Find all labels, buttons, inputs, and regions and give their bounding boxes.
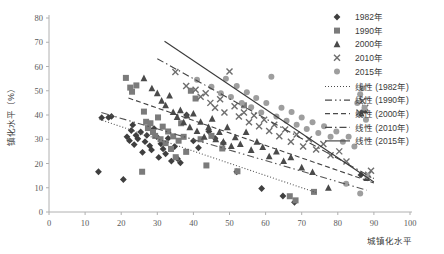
legend-label-2010年[interactable]: 2010年 — [355, 53, 383, 63]
data-point-2000年 — [243, 128, 250, 135]
data-point-2000年 — [154, 90, 161, 97]
x-tick-label: 100 — [404, 218, 417, 228]
x-tick-label: 40 — [189, 218, 198, 228]
data-point-2010年 — [172, 69, 178, 75]
y-tick-label: 80 — [35, 13, 44, 23]
data-point-1990年 — [147, 120, 153, 126]
data-point-2000年 — [259, 143, 266, 150]
data-point-1990年 — [139, 169, 145, 175]
x-axis-title: 城镇化水平 — [367, 236, 412, 246]
data-point-2000年 — [209, 115, 216, 122]
data-point-1990年 — [129, 89, 135, 95]
data-point-2000年 — [237, 141, 244, 148]
x-tick-label: 20 — [117, 218, 126, 228]
data-point-2015年 — [304, 126, 310, 132]
legend-marker-2015年 — [334, 68, 340, 74]
data-point-1982年 — [142, 138, 149, 145]
data-point-2015年 — [289, 109, 295, 115]
data-point-2015年 — [315, 130, 321, 136]
data-point-2010年 — [217, 96, 223, 102]
data-point-2000年 — [224, 124, 231, 131]
data-point-2015年 — [294, 122, 300, 128]
data-point-2010年 — [256, 123, 262, 129]
data-point-1982年 — [131, 141, 138, 148]
x-tick-label: 50 — [225, 218, 234, 228]
y-tick-label: 50 — [35, 86, 44, 96]
data-point-1982年 — [98, 114, 105, 121]
data-point-1982年 — [143, 132, 150, 139]
y-tick-label: 40 — [35, 110, 44, 120]
data-point-2010年 — [313, 146, 319, 152]
y-tick-label: 10 — [35, 183, 44, 193]
data-point-2010年 — [276, 133, 282, 139]
x-tick-label: 70 — [297, 218, 306, 228]
data-point-2015年 — [268, 74, 274, 80]
data-point-2015年 — [357, 191, 363, 197]
data-point-1982年 — [120, 176, 127, 183]
data-point-2010年 — [266, 128, 272, 134]
data-point-2000年 — [220, 138, 227, 145]
data-point-2015年 — [244, 89, 250, 95]
data-point-2000年 — [186, 124, 193, 131]
legend-label-2000年[interactable]: 2000年 — [355, 39, 383, 49]
data-point-1990年 — [133, 82, 139, 88]
y-tick-label: 60 — [35, 62, 44, 72]
legend-label-2015年[interactable]: 2015年 — [355, 67, 383, 77]
data-point-1982年 — [95, 168, 102, 175]
data-point-2010年 — [288, 139, 294, 145]
data-point-2010年 — [232, 103, 238, 109]
legend-label-线性 (2000年)[interactable]: 线性 (2000年) — [355, 109, 409, 119]
data-point-2000年 — [166, 92, 173, 99]
legend-label-1982年[interactable]: 1982年 — [355, 12, 383, 22]
data-point-2000年 — [197, 118, 204, 125]
data-point-1990年 — [173, 154, 179, 160]
data-point-1990年 — [123, 75, 129, 81]
y-tick-label: 0 — [39, 207, 43, 217]
data-point-2015年 — [340, 139, 346, 145]
data-point-2000年 — [280, 157, 287, 164]
legend-label-线性 (1990年)[interactable]: 线性 (1990年) — [355, 95, 409, 105]
data-point-2000年 — [325, 184, 332, 191]
chart-canvas: 010203040506070800102030405060708090100城… — [0, 0, 444, 254]
y-tick-label: 30 — [35, 134, 44, 144]
data-point-2015年 — [310, 119, 316, 125]
scatter-chart: 010203040506070800102030405060708090100城… — [0, 0, 444, 254]
data-point-2000年 — [248, 146, 255, 153]
data-point-1990年 — [168, 146, 174, 152]
data-point-2010年 — [212, 105, 218, 111]
data-point-1990年 — [203, 162, 209, 168]
data-point-1982年 — [190, 138, 197, 145]
x-tick-label: 90 — [370, 218, 379, 228]
data-point-2015年 — [333, 128, 339, 134]
data-point-2000年 — [177, 107, 184, 114]
data-point-2015年 — [239, 100, 245, 106]
x-tick-label: 80 — [334, 218, 343, 228]
data-point-2010年 — [227, 69, 233, 75]
data-point-2015年 — [253, 95, 259, 101]
data-point-2010年 — [368, 168, 374, 174]
x-tick-label: 30 — [153, 218, 162, 228]
data-point-2015年 — [346, 134, 352, 140]
data-point-2010年 — [221, 110, 227, 116]
data-point-2010年 — [336, 148, 342, 154]
legend-label-线性 (1982年)[interactable]: 线性 (1982年) — [355, 82, 409, 92]
data-point-2015年 — [263, 100, 269, 106]
data-point-1990年 — [152, 133, 158, 139]
legend-marker-2000年 — [334, 41, 341, 48]
data-point-2015年 — [299, 114, 305, 120]
legend-marker-2010年 — [334, 55, 340, 61]
legend-label-1990年[interactable]: 1990年 — [355, 26, 383, 36]
data-point-1990年 — [234, 168, 240, 174]
data-point-1990年 — [208, 133, 214, 139]
data-point-2015年 — [328, 134, 334, 140]
data-point-1990年 — [181, 134, 187, 140]
data-point-2000年 — [141, 75, 148, 82]
data-point-1990年 — [141, 109, 147, 115]
data-point-2010年 — [183, 83, 189, 89]
legend-label-线性 (2010年)[interactable]: 线性 (2010年) — [355, 123, 409, 133]
data-point-2010年 — [246, 119, 252, 125]
data-point-2000年 — [194, 127, 201, 134]
x-tick-label: 10 — [81, 218, 90, 228]
legend-label-线性 (2015年)[interactable]: 线性 (2015年) — [355, 136, 409, 146]
y-tick-label: 70 — [35, 37, 44, 47]
